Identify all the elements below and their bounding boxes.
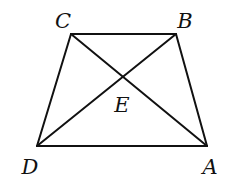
diagonal-db: [37, 34, 176, 146]
label-d: D: [21, 155, 39, 179]
label-c: C: [55, 9, 71, 33]
label-e: E: [113, 93, 129, 117]
label-b: B: [176, 9, 192, 33]
diagonal-ca: [71, 34, 207, 146]
segment-ba: [176, 34, 207, 146]
segment-dc: [37, 34, 71, 146]
label-a: A: [200, 155, 217, 179]
trapezoid-diagram: C B D A E: [0, 0, 226, 192]
